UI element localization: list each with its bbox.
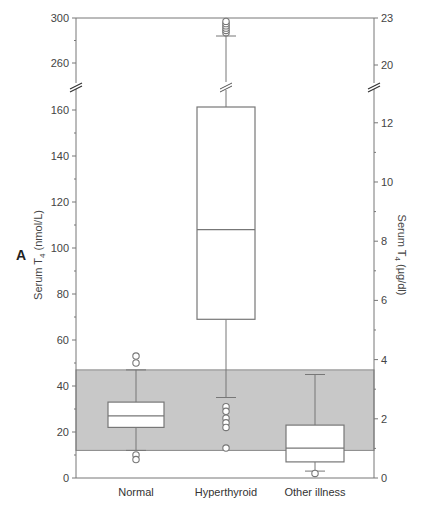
right-tick-label: 2 — [381, 413, 387, 425]
outlier-point — [223, 424, 229, 430]
category-label: Other illness — [284, 486, 346, 498]
outlier-point — [133, 360, 139, 366]
left-tick-label: 60 — [57, 334, 69, 346]
box-plot-chart: 0204060801001201401602603000246810122023… — [0, 0, 422, 510]
outlier-point — [133, 353, 139, 359]
outlier-point — [223, 445, 229, 451]
left-tick-label: 300 — [51, 12, 69, 24]
right-tick-label: 0 — [381, 472, 387, 484]
iqr-box — [108, 402, 164, 427]
left-axis-title: Serum T4 (nmol/L) — [32, 210, 47, 300]
left-tick-label: 100 — [51, 242, 69, 254]
left-tick-label: 40 — [57, 380, 69, 392]
left-tick-label: 160 — [51, 104, 69, 116]
outlier-point — [312, 470, 318, 476]
panel-label: A — [16, 247, 26, 263]
category-label: Hyperthyroid — [195, 486, 257, 498]
iqr-box — [286, 425, 344, 462]
right-tick-label: 4 — [381, 354, 387, 366]
right-tick-label: 20 — [381, 59, 393, 71]
left-tick-label: 20 — [57, 426, 69, 438]
left-tick-label: 80 — [57, 288, 69, 300]
left-tick-label: 260 — [51, 57, 69, 69]
right-tick-label: 8 — [381, 235, 387, 247]
outlier-point — [133, 456, 139, 462]
left-tick-label: 140 — [51, 150, 69, 162]
right-axis-title: Serum T4 (µg/dl) — [393, 215, 408, 296]
category-label: Normal — [118, 486, 153, 498]
outlier-point — [223, 408, 229, 414]
right-tick-label: 10 — [381, 176, 393, 188]
right-tick-label: 12 — [381, 117, 393, 129]
left-tick-label: 120 — [51, 196, 69, 208]
outlier-point — [223, 18, 229, 24]
right-tick-label: 23 — [381, 12, 393, 24]
right-tick-label: 6 — [381, 294, 387, 306]
iqr-box — [197, 107, 255, 319]
left-tick-label: 0 — [63, 472, 69, 484]
